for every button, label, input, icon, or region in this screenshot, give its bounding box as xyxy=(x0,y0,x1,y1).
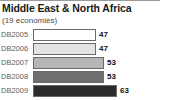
bar-row: DB2005 47 xyxy=(0,29,185,41)
bar-fill xyxy=(33,57,104,69)
chart-card: Middle East & North Africa (19 economies… xyxy=(0,0,185,100)
bar-chart-plot: DB2005 47 DB2006 47 DB2007 53 DB2008 xyxy=(0,29,185,97)
chart-title: Middle East & North Africa xyxy=(2,2,131,14)
bar-category-label: DB2008 xyxy=(1,71,31,83)
bar-category-label: DB2009 xyxy=(1,85,31,97)
bar-value-label: 53 xyxy=(107,71,116,83)
bar-fill xyxy=(33,71,104,83)
bar-row: DB2006 47 xyxy=(0,43,185,55)
bar-fill xyxy=(33,43,96,55)
bar-value-label: 47 xyxy=(99,29,108,41)
bar-fill xyxy=(33,29,96,41)
chart-subtitle: (19 economies) xyxy=(2,16,57,25)
bar-category-label: DB2005 xyxy=(1,29,31,41)
bar-track xyxy=(33,29,96,41)
bar-fill xyxy=(33,85,117,97)
bar-category-label: DB2007 xyxy=(1,57,31,69)
bar-track xyxy=(33,71,104,83)
top-divider xyxy=(0,0,160,1)
bar-track xyxy=(33,43,96,55)
bar-value-label: 47 xyxy=(99,43,108,55)
bar-track xyxy=(33,57,104,69)
bar-value-label: 63 xyxy=(120,85,129,97)
bar-row: DB2007 53 xyxy=(0,57,185,69)
bar-row: DB2008 53 xyxy=(0,71,185,83)
bar-row: DB2009 63 xyxy=(0,85,185,97)
bar-value-label: 53 xyxy=(107,57,116,69)
bar-category-label: DB2006 xyxy=(1,43,31,55)
bar-track xyxy=(33,85,117,97)
